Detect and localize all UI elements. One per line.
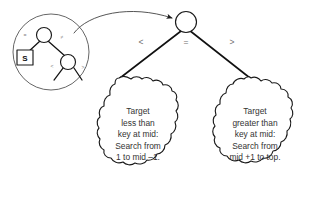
edge-label-greater-than: > xyxy=(230,37,235,47)
inset-label-not-equal: ≠ xyxy=(61,34,64,40)
left-blob-line-2: less than xyxy=(121,118,155,128)
inset-s-box-label: S xyxy=(22,54,28,63)
inset-label-equal: = xyxy=(23,32,26,38)
edge-label-equal: = xyxy=(184,37,189,47)
edge-less-than xyxy=(120,30,183,79)
right-blob-line-3: key at mid: xyxy=(235,129,276,139)
root-node[interactable] xyxy=(176,12,197,33)
inset-edge-less-than xyxy=(54,68,63,80)
right-blob-line-4: Search from xyxy=(232,141,278,151)
right-blob-line-5: mid +1 to top. xyxy=(230,152,281,162)
left-blob-line-4: Search from xyxy=(115,141,161,151)
diagram-root: < = > Target less than key at mid: Searc… xyxy=(0,0,328,200)
right-blob-line-1: Target xyxy=(243,106,267,116)
callout-arrow xyxy=(74,11,172,33)
inset-label-greater-than: > xyxy=(81,64,84,70)
inset-child-node[interactable] xyxy=(61,55,76,70)
inset-parent-node[interactable] xyxy=(37,28,52,43)
right-blob-line-2: greater than xyxy=(232,118,278,128)
inset-tree: S = ≠ < > xyxy=(17,28,85,81)
left-blob-line-1: Target xyxy=(126,106,150,116)
left-blob-line-5: 1 to mid –1. xyxy=(116,152,160,162)
edge-label-less-than: < xyxy=(139,37,144,47)
inset-edge-not-equal xyxy=(48,41,65,56)
edge-greater-than xyxy=(189,30,250,78)
inset-label-less-than: < xyxy=(50,63,53,69)
diagram-canvas: < = > Target less than key at mid: Searc… xyxy=(0,0,328,200)
left-blob-line-3: key at mid: xyxy=(118,129,159,139)
